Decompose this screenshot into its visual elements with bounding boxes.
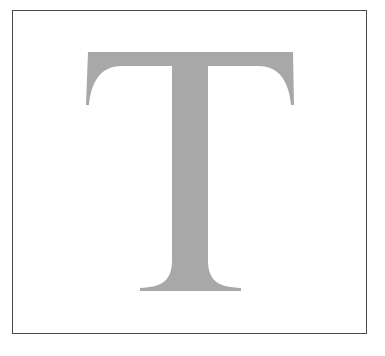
letter-t-shape [86,52,294,291]
letter-t-glyph [0,0,385,356]
